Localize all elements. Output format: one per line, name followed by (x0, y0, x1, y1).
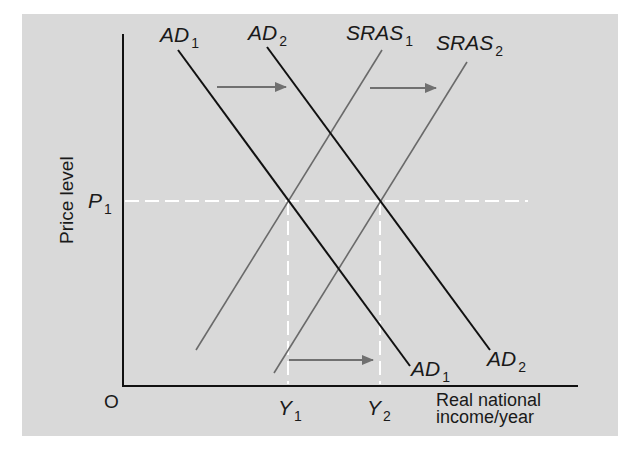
ad2-curve (267, 47, 490, 350)
ad1-curve (178, 50, 410, 366)
label-sras2: SRAS2 (436, 32, 503, 58)
chart-canvas (0, 0, 631, 454)
label-ad2-top: AD2 (248, 22, 287, 48)
label-p1: P1 (88, 190, 112, 216)
label-y1: Y1 (278, 397, 302, 423)
label-ad1-top: AD1 (160, 24, 199, 50)
label-sras1: SRAS1 (346, 22, 413, 48)
sras2-curve (274, 62, 467, 373)
label-ad1-bottom: AD1 (411, 358, 450, 384)
label-ad2-bottom: AD2 (487, 348, 526, 374)
label-origin: O (104, 392, 119, 411)
x-axis-title-line2: income/year (436, 408, 534, 426)
y-axis-title: Price level (56, 156, 78, 244)
label-y2: Y2 (367, 397, 391, 423)
